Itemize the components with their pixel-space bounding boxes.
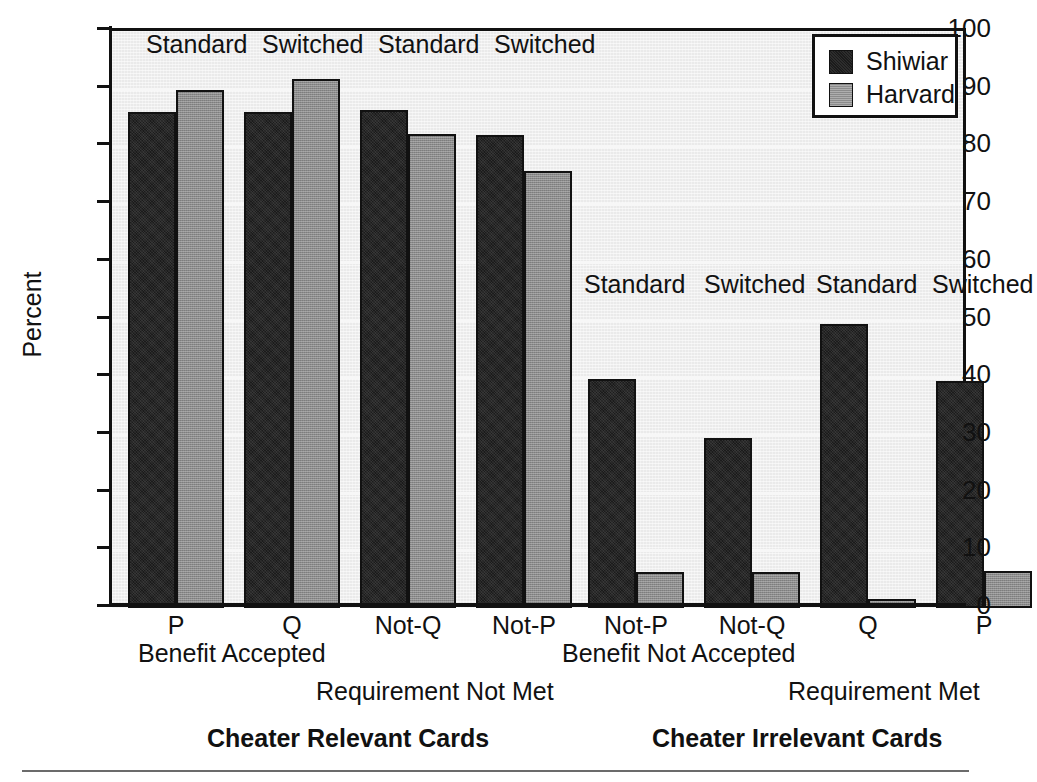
group-label-benefit-accepted: Benefit Accepted [138,640,326,666]
bar-shiwiar-0 [128,112,176,608]
condition-label-right-1: Switched [704,271,805,298]
group-label-benefit-not-accepted: Benefit Not Accepted [562,640,795,666]
bar-shiwiar-3 [476,135,524,608]
legend-item-shiwiar[interactable]: Shiwiar [829,45,955,78]
y-tick-50 [97,316,111,319]
panel-title-cheater-relevant: Cheater Relevant Cards [207,725,489,751]
bar-harvard-7 [984,571,1032,609]
y-tick-30 [97,431,111,434]
bar-shiwiar-1 [244,112,292,608]
y-axis-label-40: 40 [905,361,991,387]
bottom-rule [22,770,969,772]
gridline-80 [112,145,963,148]
panel-title-cheater-irrelevant: Cheater Irrelevant Cards [652,725,942,751]
legend-item-harvard[interactable]: Harvard [829,78,955,111]
y-axis-label-10: 10 [905,534,991,560]
y-tick-90 [97,85,111,88]
legend-swatch-harvard-icon [829,83,853,107]
y-axis-label-80: 80 [905,130,991,156]
y-axis-title: Percent [18,235,47,395]
bar-shiwiar-6 [820,324,868,608]
y-tick-20 [97,489,111,492]
y-tick-60 [97,258,111,261]
condition-label-right-0: Standard [584,271,685,298]
group-label-requirement-not-met: Requirement Not Met [316,678,554,704]
y-axis-label-20: 20 [905,477,991,503]
y-axis-label-30: 30 [905,419,991,445]
condition-label-right-3: Switched [932,271,1033,298]
condition-label-left-0: Standard [146,31,247,58]
y-tick-40 [97,373,111,376]
bar-harvard-1 [292,79,340,608]
legend-label-shiwiar: Shiwiar [866,49,948,74]
bar-shiwiar-5 [704,438,752,608]
y-tick-10 [97,546,111,549]
bar-harvard-3 [524,171,572,608]
legend-swatch-shiwiar-icon [829,50,853,74]
bar-shiwiar-2 [360,110,408,608]
y-axis-label-50: 50 [905,304,991,330]
y-tick-100 [97,27,111,30]
group-label-requirement-met: Requirement Met [788,678,980,704]
bar-harvard-0 [176,90,224,608]
y-tick-80 [97,142,111,145]
condition-label-left-1: Switched [262,31,363,58]
condition-label-left-3: Switched [494,31,595,58]
condition-label-left-2: Standard [378,31,479,58]
bar-harvard-2 [408,134,456,608]
legend: Shiwiar Harvard [812,34,958,118]
legend-label-harvard: Harvard [866,82,955,107]
condition-label-right-2: Standard [816,271,917,298]
bar-shiwiar-4 [588,379,636,608]
y-tick-70 [97,200,111,203]
y-axis-label-60: 60 [905,246,991,272]
y-axis-label-70: 70 [905,188,991,214]
x-tick-label-7: P [914,612,1037,638]
x-axis-line [109,603,966,607]
